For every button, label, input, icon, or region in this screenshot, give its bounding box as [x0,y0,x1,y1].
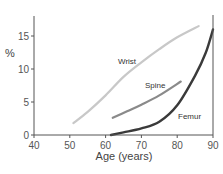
x-tick-label: 90 [207,140,219,151]
y-axis-title: % [5,47,15,59]
x-tick-label: 80 [172,140,184,151]
y-tick-label: 15 [18,31,30,42]
y-ticks: 051015 [18,31,34,141]
y-tick-label: 10 [18,64,30,75]
femur-label: Femur [178,112,201,121]
y-tick-label: 5 [23,97,29,108]
wrist-line [73,26,198,123]
line-chart: 405060708090 051015 WristSpineFemur Age … [0,0,223,174]
x-axis-title: Age (years) [96,150,153,162]
wrist-label: Wrist [118,57,137,66]
x-tick-label: 40 [28,140,40,151]
y-tick-label: 0 [23,130,29,141]
spine-label: Spine [145,81,166,90]
x-ticks: 405060708090 [28,135,219,151]
x-tick-label: 50 [64,140,76,151]
